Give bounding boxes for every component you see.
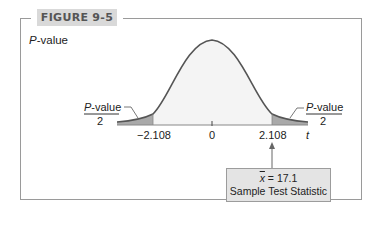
test-statistic-box: x = 17.1 Sample Test Statistic (226, 168, 331, 202)
stat-line: x = 17.1 (227, 172, 330, 185)
right-tail-denominator: 2 (320, 115, 326, 127)
stat-caption: Sample Test Statistic (227, 185, 330, 198)
left-tail-numerator: P-value (84, 101, 121, 113)
left-leader (124, 107, 138, 118)
tick-label-pos: 2.108 (259, 129, 287, 141)
arrow-head-icon (269, 142, 275, 149)
tick-label-neg: −2.108 (137, 129, 171, 141)
tick-label-zero: 0 (209, 129, 215, 141)
right-leader (290, 108, 304, 118)
right-tail-numerator: P-value (306, 101, 343, 113)
left-tail-denominator: 2 (97, 115, 103, 127)
x-axis-variable: t (306, 129, 309, 141)
curve-body-fill (153, 40, 272, 125)
